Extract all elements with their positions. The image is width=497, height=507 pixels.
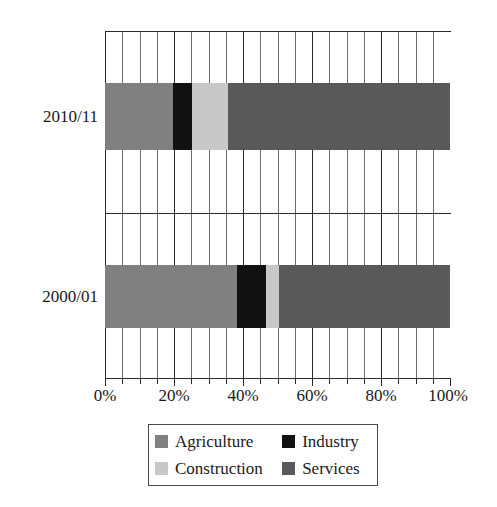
x-tick-45 [260, 379, 261, 384]
stacked-bar-chart: 0% 20% 40% 60% 80% 100% 2010/11 2000/01 … [0, 0, 497, 507]
x-tick-40 [243, 379, 244, 386]
y-tick-label-2000-01: 2000/01 [0, 287, 98, 307]
x-tick-0 [105, 379, 106, 386]
category-divider [105, 213, 451, 214]
legend-entry-industry: Industry [282, 432, 371, 452]
legend-swatch-agriculture [155, 435, 168, 448]
x-tick-25 [191, 379, 192, 384]
x-tick-50 [278, 379, 279, 384]
bar-segment-services-2000-01 [279, 265, 450, 328]
legend-entry-services: Services [282, 459, 371, 479]
x-tick-15 [157, 379, 158, 384]
x-tick-55 [295, 379, 296, 384]
x-tick-label-100: 100% [428, 386, 468, 406]
bar-2010-11 [105, 83, 450, 150]
x-tick-label-60: 60% [296, 386, 327, 406]
bar-segment-agriculture-2010-11 [105, 83, 173, 150]
legend-label-construction: Construction [175, 459, 263, 479]
chart-legend: Agriculture Industry Construction Servic… [148, 424, 378, 486]
legend-swatch-services [282, 462, 295, 475]
x-tick-label-80: 80% [365, 386, 396, 406]
x-tick-30 [209, 379, 210, 384]
x-tick-70 [347, 379, 348, 384]
x-tick-label-20: 20% [158, 386, 189, 406]
x-tick-10 [140, 379, 141, 384]
bar-segment-services-2010-11 [228, 83, 450, 150]
y-tick-label-2010-11: 2010/11 [0, 107, 98, 127]
bar-2000-01 [105, 265, 450, 328]
x-tick-80 [381, 379, 382, 386]
x-tick-35 [226, 379, 227, 384]
legend-entry-construction: Construction [155, 459, 274, 479]
bar-segment-construction-2000-01 [266, 265, 279, 328]
x-tick-90 [416, 379, 417, 384]
legend-entry-agriculture: Agriculture [155, 432, 274, 452]
x-tick-5 [122, 379, 123, 384]
legend-swatch-construction [155, 462, 168, 475]
x-tick-95 [433, 379, 434, 384]
x-tick-100 [450, 379, 451, 386]
bar-segment-industry-2010-11 [173, 83, 192, 150]
bar-segment-industry-2000-01 [237, 265, 266, 328]
x-tick-20 [174, 379, 175, 386]
legend-label-industry: Industry [302, 432, 359, 452]
x-tick-60 [312, 379, 313, 386]
axis-spine-top [105, 31, 451, 32]
legend-swatch-industry [282, 435, 295, 448]
bar-segment-construction-2010-11 [192, 83, 228, 150]
x-tick-label-0: 0% [94, 386, 117, 406]
x-tick-75 [364, 379, 365, 384]
legend-label-services: Services [302, 459, 360, 479]
x-tick-label-40: 40% [227, 386, 258, 406]
bar-segment-agriculture-2000-01 [105, 265, 237, 328]
x-tick-65 [329, 379, 330, 384]
legend-label-agriculture: Agriculture [175, 432, 253, 452]
x-tick-85 [398, 379, 399, 384]
